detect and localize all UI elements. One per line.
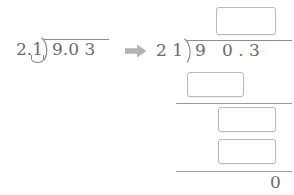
work-row-box-2[interactable]	[218, 107, 276, 132]
division-bracket-icon-left	[41, 37, 50, 61]
quotient-answer-box[interactable]	[216, 7, 276, 35]
converted-division-expression: 2 1 9 0 . 3 0	[150, 0, 294, 195]
remainder-value: 0	[270, 174, 281, 191]
converted-divisor: 2 1	[156, 42, 183, 59]
work-divider-line-1	[176, 103, 292, 104]
original-dividend: 9.0 3	[52, 41, 95, 58]
right-arrow-icon	[124, 43, 148, 59]
division-bracket-icon-right	[184, 38, 194, 63]
original-division-expression: 2.1 9.0 3	[0, 30, 120, 70]
converted-dividend: 9 0 . 3	[195, 42, 260, 59]
long-division-worksheet: 2.1 9.0 3 2 1 9 0 . 3	[0, 0, 294, 195]
work-row-box-1[interactable]	[187, 72, 244, 97]
work-row-box-3[interactable]	[218, 139, 276, 164]
